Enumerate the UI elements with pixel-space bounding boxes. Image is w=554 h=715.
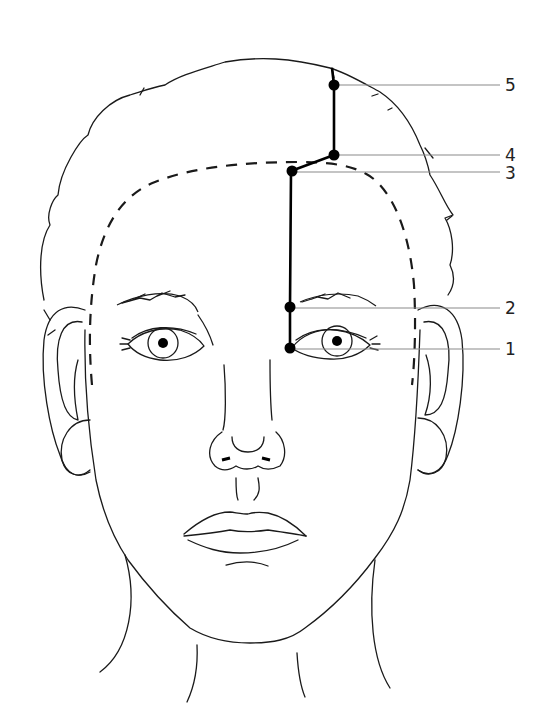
face-boundary-dashed: [90, 162, 415, 385]
nose-tip: [210, 432, 285, 470]
left-eyebrow-tail: [198, 315, 213, 345]
label-point-5: 5: [505, 77, 516, 94]
point-4-marker: [329, 150, 340, 161]
neck-inner-right: [297, 653, 305, 697]
leader-lines: [290, 85, 500, 349]
point-1-marker: [285, 343, 296, 354]
lower-lip: [188, 540, 298, 553]
nose-bridge-left: [223, 365, 225, 430]
face-diagram: [0, 0, 554, 715]
right-ear: [418, 305, 463, 473]
neck-left: [100, 555, 131, 672]
right-ear-lobe: [418, 418, 447, 474]
point-5-marker: [329, 80, 340, 91]
measurement-path: [290, 68, 334, 348]
hair-outline: [41, 59, 454, 300]
label-point-4: 4: [505, 147, 516, 164]
philtrum: [236, 478, 259, 500]
left-eye-lashes: [120, 338, 130, 350]
right-ear-inner: [424, 322, 449, 415]
label-point-2: 2: [505, 300, 516, 317]
left-pupil-icon: [158, 338, 168, 348]
neck-inner-left: [187, 645, 197, 702]
left-eyebrow-hair: [122, 291, 185, 303]
point-3-marker: [287, 166, 298, 177]
left-ear-inner: [57, 322, 82, 420]
chin-line: [226, 562, 268, 566]
left-ear: [43, 307, 90, 475]
neck-right: [372, 560, 390, 688]
right-eye-lashes: [370, 336, 380, 350]
label-point-1: 1: [505, 341, 516, 358]
nostrils: [222, 458, 270, 460]
nose-bridge-right: [270, 360, 272, 420]
label-point-3: 3: [505, 165, 516, 182]
point-2-marker: [285, 302, 296, 313]
face-outline: [85, 330, 420, 643]
nose-tip-inner: [232, 437, 264, 452]
lip-line: [184, 530, 306, 536]
right-eyebrow: [300, 294, 376, 306]
right-pupil-icon: [332, 336, 342, 346]
